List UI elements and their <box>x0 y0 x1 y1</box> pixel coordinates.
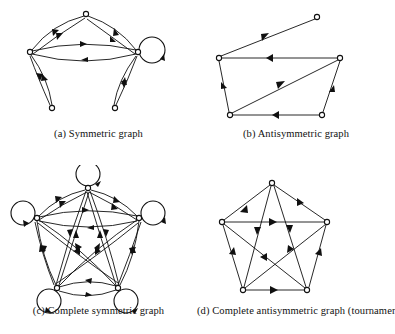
arrowhead-self-loop-top <box>95 181 101 187</box>
caption-antisymmetric-graph: (b) Antisymmetric graph <box>197 128 395 139</box>
node-upper-left[interactable] <box>216 55 221 60</box>
edge-c-L-R-top <box>39 211 137 217</box>
edge-c-R-L-bot <box>39 221 137 227</box>
edge-c-T-BR-a <box>90 191 119 285</box>
arrowhead-lowerright-lowerleft <box>272 111 279 119</box>
edge-c-L-BL-a <box>37 221 56 285</box>
node-d-left[interactable] <box>219 219 224 224</box>
edge-right-top-in <box>87 19 135 54</box>
caption-complete-symmetric-graph: (c) Complete symmetric graph <box>0 305 197 316</box>
arrowhead-d-T-BR <box>286 225 293 233</box>
arrowhead-c-T-BR-a <box>103 229 109 237</box>
panel-symmetric-graph: (a) Symmetric graph <box>0 0 197 148</box>
node-bottom-right[interactable] <box>112 105 117 110</box>
arrowhead-c-BL-BR-bot <box>85 292 92 297</box>
arrowhead-c-BL-BR-top <box>85 278 92 284</box>
node-c-bottom-left[interactable] <box>54 285 59 290</box>
arrowhead-d-L-T <box>240 205 248 213</box>
node-d-bottom-left[interactable] <box>240 287 245 292</box>
node-d-bottom-right[interactable] <box>304 287 309 292</box>
arrowhead-c-BL-T-b <box>73 230 79 238</box>
figure-sheet: (a) Symmetric graph <box>0 0 395 334</box>
arrowhead-upperright-upperleft <box>266 54 273 62</box>
panel-complete-symmetric-graph: (c) Complete symmetric graph <box>0 165 197 330</box>
edge-lowerright-upperright <box>323 61 340 112</box>
edge-d-R-BR <box>309 225 326 287</box>
arrowhead-d-R-BR <box>315 248 322 256</box>
caption-tournament-graph: (d) Complete antisymmetric graph (tourna… <box>197 305 395 316</box>
arrowhead-upperright-lowerleft <box>276 81 285 89</box>
graph-a-canvas <box>0 0 197 148</box>
self-loop-top <box>76 165 100 186</box>
node-top[interactable] <box>83 11 88 16</box>
node-c-right[interactable] <box>136 215 141 220</box>
node-d-right[interactable] <box>324 219 329 224</box>
node-right[interactable] <box>135 49 140 54</box>
node-upper-right[interactable] <box>337 55 342 60</box>
arrowhead-upperleft-lowerleft <box>221 82 227 89</box>
arrowhead-c-T-BL-a <box>67 229 73 237</box>
arrowhead-d-BR-L <box>260 253 267 261</box>
arrowhead-d-BL-BR <box>270 286 278 294</box>
caption-symmetric-graph: (a) Symmetric graph <box>0 128 197 139</box>
edge-c-BL-BR-top <box>59 282 116 287</box>
self-loop-left <box>11 201 35 225</box>
edge-d-BL-L <box>223 225 242 287</box>
arrowhead-self-loop-left <box>23 220 29 227</box>
node-lower-right[interactable] <box>319 112 324 117</box>
arrowhead-c-T-R-a <box>113 196 120 203</box>
node-c-bottom-right[interactable] <box>115 285 120 290</box>
arrowhead-c-R-L-bot <box>87 225 94 230</box>
arrowhead-left-right-top <box>80 41 87 47</box>
edge-pendant-upperleft <box>221 19 315 56</box>
node-left[interactable] <box>27 49 32 54</box>
arrowhead-c-BR-T-b <box>97 230 103 238</box>
node-d-top[interactable] <box>269 180 274 185</box>
self-loop-right <box>141 201 165 225</box>
node-lower-left[interactable] <box>227 112 232 117</box>
node-c-top[interactable] <box>85 185 90 190</box>
node-bottom-left[interactable] <box>49 105 54 110</box>
node-pendant[interactable] <box>314 14 319 19</box>
panel-tournament-graph: (d) Complete antisymmetric graph (tourna… <box>197 165 395 330</box>
arrowhead-pendant-upperleft <box>261 33 269 41</box>
edge-upperright-lowerleft <box>232 60 338 113</box>
arrowhead-c-R-T-b <box>111 203 118 210</box>
edge-c-BR-R-b <box>118 222 141 285</box>
graph-b-canvas <box>197 0 395 148</box>
node-c-left[interactable] <box>34 215 39 220</box>
arrowhead-left-top-in <box>56 33 63 40</box>
edge-top-right-out <box>88 16 136 50</box>
arrowhead-d-T-BL <box>254 227 261 235</box>
edge-c-R-BR-a <box>120 221 139 285</box>
panel-antisymmetric-graph: (b) Antisymmetric graph <box>197 0 395 148</box>
arrowhead-c-L-T-b <box>59 201 66 208</box>
arrowhead-d-L-R <box>269 218 277 226</box>
